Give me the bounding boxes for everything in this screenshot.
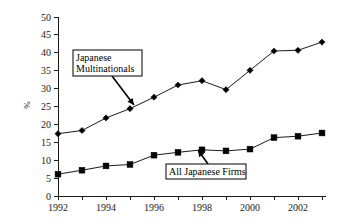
data-point-diamond	[199, 78, 205, 84]
data-point-square	[271, 135, 277, 141]
y-tick-label: 20	[41, 119, 51, 130]
data-point-diamond	[103, 115, 109, 121]
y-tick-label: 40	[41, 47, 51, 58]
y-tick-label: 35	[41, 65, 51, 76]
x-tick-label: 1994	[96, 202, 116, 213]
y-tick-label: 25	[41, 101, 51, 112]
chart-container: 05101520253035404550 1992199419961998200…	[0, 0, 342, 224]
x-tick-label: 1992	[48, 202, 68, 213]
annotation-label: Japanese	[76, 52, 112, 63]
data-point-diamond	[127, 106, 133, 112]
y-tick-label: 10	[41, 155, 51, 166]
data-point-square	[79, 167, 85, 173]
x-axis: 199219941996199820002002	[48, 196, 326, 213]
y-tick-label: 30	[41, 83, 51, 94]
y-tick-label: 5	[46, 173, 51, 184]
data-point-square	[127, 162, 133, 168]
x-tick-label: 1996	[144, 202, 164, 213]
y-axis-title: %	[22, 101, 32, 109]
data-point-square	[55, 171, 61, 177]
y-tick-label: 15	[41, 137, 51, 148]
data-point-square	[151, 152, 157, 158]
data-point-square	[175, 149, 181, 155]
data-point-diamond	[319, 39, 325, 45]
data-point-square	[247, 146, 253, 152]
data-point-diamond	[55, 131, 61, 137]
x-tick-label: 2000	[240, 202, 260, 213]
data-point-square	[319, 130, 325, 136]
data-point-square	[103, 163, 109, 169]
data-point-square	[295, 133, 301, 139]
annotation-label: Multinationals	[76, 63, 134, 74]
annotations-group: JapaneseMultinationalsAll Japanese Firms	[73, 50, 246, 179]
x-tick-label: 2002	[288, 202, 308, 213]
y-tick-label: 45	[41, 29, 51, 40]
x-tick-label: 1998	[192, 202, 212, 213]
line-chart: 05101520253035404550 1992199419961998200…	[0, 0, 342, 224]
data-point-diamond	[175, 82, 181, 88]
y-tick-label: 0	[46, 191, 51, 202]
annotation-japanese-multinationals: JapaneseMultinationals	[73, 50, 142, 105]
data-point-diamond	[151, 94, 157, 100]
annotation-label: All Japanese Firms	[169, 166, 246, 177]
data-point-square	[223, 148, 229, 154]
data-point-diamond	[79, 127, 85, 133]
y-tick-label: 50	[41, 12, 51, 23]
data-point-diamond	[295, 47, 301, 53]
